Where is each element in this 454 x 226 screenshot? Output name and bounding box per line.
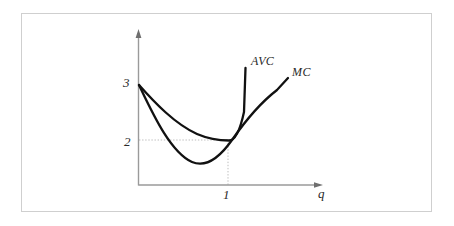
y-tick-label-3: 3 bbox=[123, 76, 130, 89]
y-axis-arrowhead bbox=[136, 29, 142, 38]
y-tick-label-2: 2 bbox=[124, 135, 131, 148]
curve-label-mc: MC bbox=[292, 66, 311, 78]
curve-mc bbox=[139, 78, 288, 164]
figure-root: 3 2 1 q AVC MC bbox=[0, 0, 454, 226]
curve-avc bbox=[139, 68, 246, 141]
x-tick-label-1: 1 bbox=[223, 188, 230, 201]
curve-label-avc: AVC bbox=[251, 55, 274, 67]
x-axis-label: q bbox=[318, 187, 325, 200]
